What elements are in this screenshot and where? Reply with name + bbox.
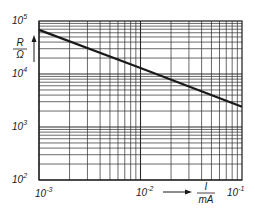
x-axis-label: I mA xyxy=(163,181,215,205)
y-label-numerator: R xyxy=(16,37,23,48)
y-tick-label: 104 xyxy=(12,66,27,79)
x-tick-label: 10-1 xyxy=(227,185,244,198)
arrow-up-icon xyxy=(32,35,37,62)
x-label-denominator: mA xyxy=(199,194,214,205)
y-tick-label: 103 xyxy=(12,119,27,132)
y-tick-label: 102 xyxy=(12,172,27,185)
y-label-denominator: Ω xyxy=(16,49,24,60)
y-tick-label: 105 xyxy=(12,13,27,26)
x-label-numerator: I xyxy=(205,181,208,192)
x-tick-label: 10-3 xyxy=(35,186,52,199)
grid xyxy=(39,21,242,180)
y-axis-label: R Ω xyxy=(13,35,37,62)
arrow-right-icon xyxy=(163,190,192,195)
chart: 105 104 103 102 R Ω 10-3 10-2 10-1 I mA xyxy=(0,0,255,215)
x-tick-label: 10-2 xyxy=(136,185,153,198)
